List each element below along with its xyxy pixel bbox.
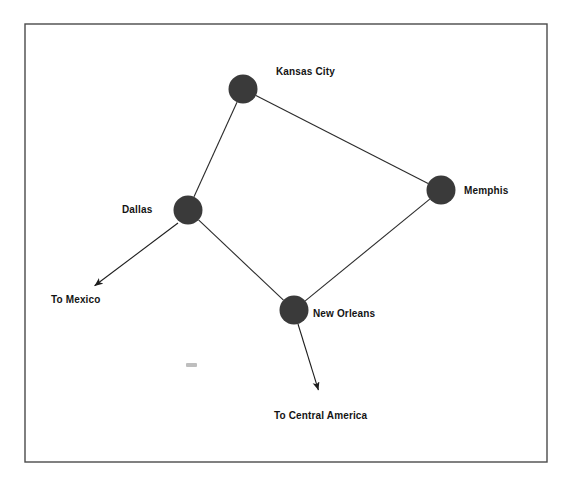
nodes-layer bbox=[174, 75, 456, 325]
node-label-memphis: Memphis bbox=[464, 185, 508, 197]
node-memphis[interactable] bbox=[427, 176, 456, 205]
arrow-to-central-america bbox=[298, 324, 318, 390]
edge-kansas-city-memphis bbox=[256, 96, 428, 184]
flow-label-to-mexico: To Mexico bbox=[51, 294, 101, 306]
arrow-to-mexico bbox=[95, 223, 178, 286]
node-label-new-orleans: New Orleans bbox=[313, 308, 375, 320]
node-kansas-city[interactable] bbox=[229, 75, 258, 104]
figure-border bbox=[25, 24, 547, 462]
edge-kansas-city-dallas bbox=[194, 102, 237, 197]
network-diagram: Kansas City Memphis Dallas New Orleans T… bbox=[0, 0, 568, 480]
node-new-orleans[interactable] bbox=[280, 296, 309, 325]
node-dallas[interactable] bbox=[174, 196, 203, 225]
edge-memphis-new-orleans bbox=[305, 199, 430, 301]
node-label-kansas-city: Kansas City bbox=[276, 66, 335, 78]
node-label-dallas: Dallas bbox=[122, 204, 152, 216]
scan-smudge-artifact bbox=[186, 363, 197, 367]
edges-layer bbox=[194, 96, 430, 301]
edge-dallas-new-orleans bbox=[199, 220, 284, 300]
flow-label-to-central-america: To Central America bbox=[274, 410, 367, 422]
